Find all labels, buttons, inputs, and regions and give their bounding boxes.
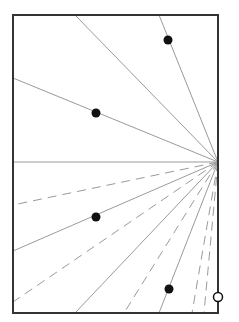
solid-ray xyxy=(13,162,218,251)
rays-layer xyxy=(13,15,218,313)
solid-ray xyxy=(75,15,218,162)
solid-ray xyxy=(75,162,218,313)
ray-diagram xyxy=(0,0,239,322)
filled-point xyxy=(92,109,101,118)
filled-point xyxy=(164,36,173,45)
diagram-canvas xyxy=(0,0,239,322)
dashed-ray xyxy=(13,162,218,302)
frame-rectangle xyxy=(13,15,218,313)
dashed-ray xyxy=(204,162,218,313)
filled-point xyxy=(92,213,101,222)
open-point xyxy=(214,293,223,302)
solid-ray xyxy=(13,78,218,162)
filled-point xyxy=(165,285,174,294)
